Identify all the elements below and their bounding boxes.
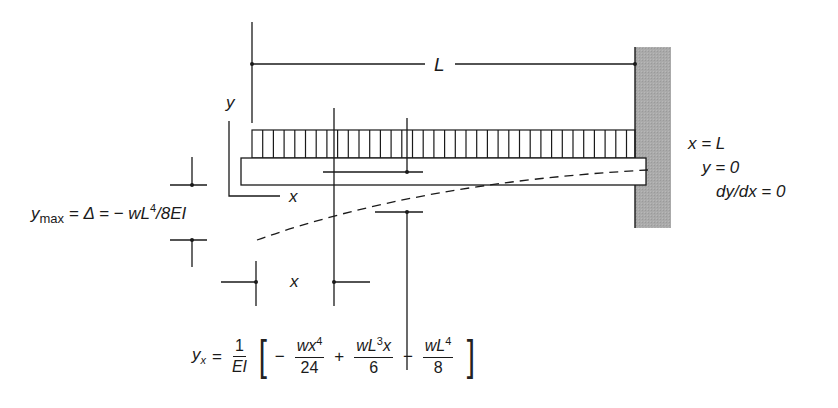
open-bracket: [ [259,335,267,377]
term3-fraction: wL4 8 [423,336,454,375]
term1-sign: − [275,348,285,365]
cantilever-beam [241,158,646,185]
span-label: L [434,55,445,74]
term3-exponent: 4 [445,335,451,347]
term3-numerator: wL4 [423,336,454,357]
bc-slope-equals-0: dy/dx = 0 [716,183,785,200]
position-x-label: x [290,273,299,290]
ymax-symbol: y [31,204,40,223]
term3-num-text: wL [425,338,445,355]
equals-sign: = [212,348,222,365]
term1-denominator: 24 [301,358,319,376]
term3-sign: − [403,348,413,365]
yx-symbol: yx [192,346,206,366]
x-axis-label: x [289,188,298,205]
coefficient-denominator: EI [232,357,247,375]
distributed-load [252,130,635,158]
ymax-expression: = Δ = − wL [64,204,150,223]
term1-fraction: wx4 24 [295,336,325,375]
term1-exponent: 4 [316,335,322,347]
term2-num-a: wL [356,338,376,355]
ymax-denominator: /8EI [156,204,186,223]
term2-denominator: 6 [369,358,378,376]
deflection-equation: yx = 1 EI [ − wx4 24 + wL3x 6 − wL4 8 ] [192,335,477,377]
yx-main: y [192,345,201,364]
ymax-subscript: max [40,211,65,226]
fixed-wall-support [635,47,671,228]
term1-num-text: wx [297,338,317,355]
term2-numerator: wL3x [354,336,393,357]
coefficient-numerator: 1 [233,338,246,357]
bc-y-equals-0: y = 0 [702,159,739,176]
term1-numerator: wx4 [295,336,325,357]
bc-x-equals-L: x = L [688,135,725,152]
term3-denominator: 8 [434,358,443,376]
term2-fraction: wL3x 6 [354,336,393,375]
close-bracket: ] [467,335,475,377]
max-deflection-formula: ymax = Δ = − wL4/8EI [31,203,186,222]
term2-sign: + [334,348,344,365]
yx-subscript: x [201,354,207,366]
y-axis-label: y [226,94,235,111]
term2-num-b: x [383,338,391,355]
coefficient-fraction: 1 EI [232,338,247,375]
